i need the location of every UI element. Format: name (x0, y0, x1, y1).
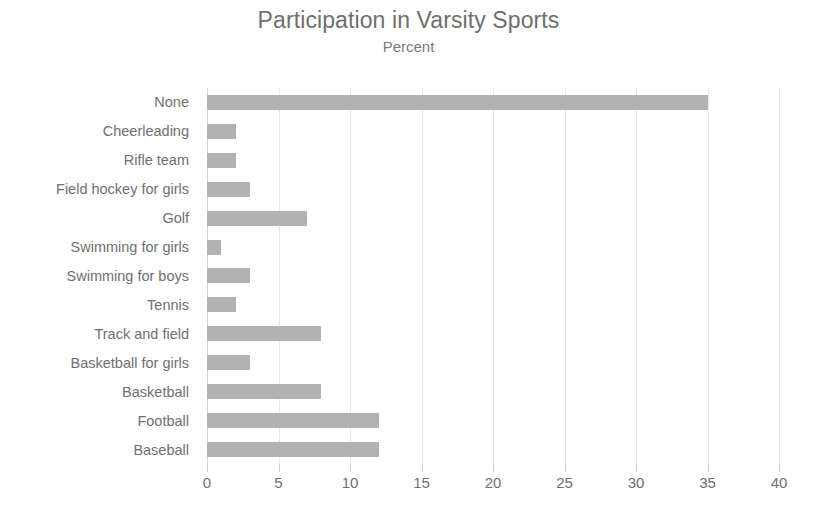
bar-row (207, 290, 779, 319)
bar-row (207, 406, 779, 435)
bar-row (207, 204, 779, 233)
bar[interactable] (207, 153, 236, 168)
bar[interactable] (207, 413, 379, 428)
bar-row (207, 319, 779, 348)
x-axis-tick (279, 464, 280, 472)
bar[interactable] (207, 442, 379, 457)
x-axis-tick-label: 35 (699, 474, 716, 491)
bar[interactable] (207, 297, 236, 312)
plot-area (207, 88, 779, 464)
x-axis-tick-label: 20 (485, 474, 502, 491)
x-axis-tick-label: 15 (413, 474, 430, 491)
x-axis-tick-label: 0 (203, 474, 211, 491)
bar-row (207, 262, 779, 291)
y-axis-label: Baseball (0, 435, 198, 464)
x-axis-tick (422, 464, 423, 472)
x-axis-tick-label: 40 (771, 474, 788, 491)
bar[interactable] (207, 240, 221, 255)
y-axis-label: Field hockey for girls (0, 175, 198, 204)
x-axis-tick (636, 464, 637, 472)
bar[interactable] (207, 355, 250, 370)
bar-row (207, 175, 779, 204)
x-axis-tick (493, 464, 494, 472)
x-axis-tick-label: 10 (342, 474, 359, 491)
bar[interactable] (207, 326, 321, 341)
y-axis-label: Football (0, 406, 198, 435)
bar-row (207, 117, 779, 146)
gridline (779, 88, 780, 464)
bar[interactable] (207, 268, 250, 283)
x-axis-tick-labels: 0510152025303540 (207, 474, 779, 498)
y-axis-label: Cheerleading (0, 117, 198, 146)
y-axis-label: Basketball for girls (0, 348, 198, 377)
bar[interactable] (207, 182, 250, 197)
bar-row (207, 435, 779, 464)
y-axis-label: Swimming for boys (0, 262, 198, 291)
y-axis-label: Swimming for girls (0, 233, 198, 262)
y-axis-label: Golf (0, 204, 198, 233)
chart-subtitle: Percent (0, 37, 817, 57)
x-axis-tick (708, 464, 709, 472)
x-axis-tick (350, 464, 351, 472)
x-axis-tick-label: 5 (274, 474, 282, 491)
bar[interactable] (207, 124, 236, 139)
x-axis-tick (779, 464, 780, 472)
bar[interactable] (207, 95, 708, 110)
y-axis-label: Tennis (0, 290, 198, 319)
bar-row (207, 348, 779, 377)
page-title: Participation in Varsity Sports (0, 6, 817, 34)
y-axis-label: Track and field (0, 319, 198, 348)
x-axis-tick (207, 464, 208, 472)
x-axis-tick-label: 25 (556, 474, 573, 491)
bar-row (207, 233, 779, 262)
bar-row (207, 377, 779, 406)
x-axis-tick-label: 30 (628, 474, 645, 491)
x-axis-ticks (207, 464, 779, 472)
y-axis-category-labels: NoneCheerleadingRifle teamField hockey f… (0, 88, 198, 464)
bar-series (207, 88, 779, 464)
bar-chart: Participation in Varsity Sports Percent … (0, 0, 817, 523)
bar-row (207, 88, 779, 117)
bar[interactable] (207, 211, 307, 226)
chart-title-block: Participation in Varsity Sports Percent (0, 6, 817, 57)
bar[interactable] (207, 384, 321, 399)
x-axis-tick (565, 464, 566, 472)
y-axis-label: Rifle team (0, 146, 198, 175)
y-axis-label: Basketball (0, 377, 198, 406)
y-axis-label: None (0, 88, 198, 117)
bar-row (207, 146, 779, 175)
